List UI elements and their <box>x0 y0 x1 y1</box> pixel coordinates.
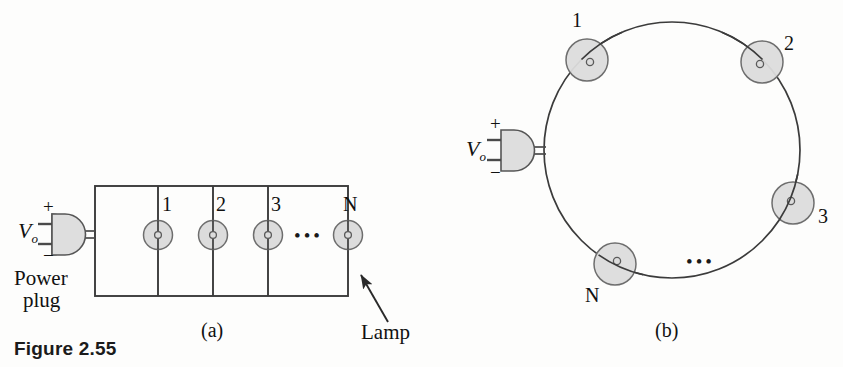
polarity-plus-a: + <box>43 197 54 216</box>
ring-lamp-1 <box>566 39 608 81</box>
ellipsis-a: ••• <box>294 226 323 245</box>
ring-lamp-label-3: 3 <box>818 206 828 226</box>
ring-lamp-3 <box>772 182 814 224</box>
ring-lamp-label-N: N <box>585 285 599 305</box>
panel-b-group <box>487 22 814 285</box>
lamp-annotation-label: Lamp <box>361 322 410 343</box>
power-plug-label-line1: Power <box>14 268 68 289</box>
ring-lamp-label-1: 1 <box>572 10 582 30</box>
figure-caption: Figure 2.55 <box>14 338 117 360</box>
polarity-minus-b: − <box>490 163 501 182</box>
polarity-plus-b: + <box>490 114 501 133</box>
lamp-2 <box>199 221 228 250</box>
panel-a-group <box>38 186 388 322</box>
ring-lamp-label-2: 2 <box>784 33 794 53</box>
figure-container: Vo + − Power plug 1 2 3 N ••• Lamp (a) V… <box>0 0 843 367</box>
power-plug-body-b <box>501 130 535 171</box>
polarity-minus-a: − <box>43 246 54 265</box>
panel-label-a: (a) <box>201 320 223 340</box>
lamp-annotation-arrow <box>361 275 388 322</box>
lamp-label-1: 1 <box>162 194 172 214</box>
lamp-label-N: N <box>343 194 357 214</box>
lamp-label-3: 3 <box>271 194 281 214</box>
power-plug-outline <box>52 214 86 255</box>
figure-drawing <box>0 0 843 367</box>
ellipsis-b: ••• <box>686 252 715 271</box>
lamp-1 <box>144 221 173 250</box>
lamp-3 <box>254 221 283 250</box>
panel-label-b: (b) <box>655 320 678 340</box>
voltage-label-b: Vo <box>466 138 486 163</box>
power-plug-label-line2: plug <box>23 290 60 311</box>
lamp-N <box>334 221 363 250</box>
voltage-label-a: Vo <box>18 220 38 245</box>
lamp-label-2: 2 <box>216 194 226 214</box>
